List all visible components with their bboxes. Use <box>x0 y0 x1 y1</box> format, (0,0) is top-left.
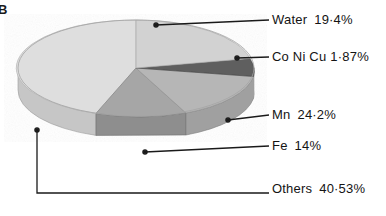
pie-chart-figure: B <box>0 0 386 216</box>
slice-value-water: 19·4% <box>314 12 353 27</box>
slice-value-co-ni-cu: 1·87% <box>330 49 369 64</box>
slice-name-co-ni-cu: Co Ni Cu <box>272 49 326 64</box>
slice-name-mn: Mn <box>272 107 290 122</box>
leader-dot-others <box>35 128 39 132</box>
slice-name-others: Others <box>272 181 312 196</box>
slice-label-water: Water19·4% <box>272 12 353 27</box>
slice-label-fe: Fe14% <box>272 138 321 153</box>
leader-line-fe <box>145 146 269 152</box>
leader-dot-fe <box>143 150 147 154</box>
slice-value-mn: 24·2% <box>297 107 336 122</box>
slice-label-others: Others40·53% <box>272 181 365 196</box>
leader-line-others <box>37 130 269 193</box>
slice-name-water: Water <box>272 12 307 27</box>
pie-body <box>16 20 254 135</box>
slice-label-mn: Mn24·2% <box>272 107 336 122</box>
leader-dot-mn <box>226 118 230 122</box>
slice-value-others: 40·53% <box>319 181 365 196</box>
leader-dot-water <box>154 23 158 27</box>
slice-name-fe: Fe <box>272 138 288 153</box>
slice-value-fe: 14% <box>295 138 322 153</box>
leader-dot-co-ni-cu <box>235 56 239 60</box>
slice-label-co-ni-cu: Co Ni Cu1·87% <box>272 49 369 64</box>
